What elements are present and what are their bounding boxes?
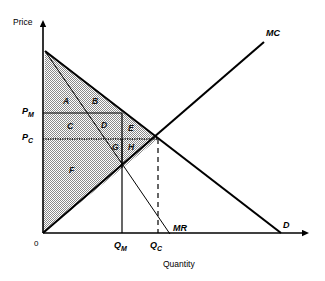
region-label-g: G <box>112 143 119 152</box>
price-tick-pm-sub: M <box>28 111 34 118</box>
region-label-f: F <box>69 166 74 175</box>
region-label-d: D <box>101 121 107 130</box>
quantity-tick-qc-sub: C <box>157 245 162 252</box>
x-axis-title: Quantity <box>163 260 195 269</box>
marginal-revenue-label: MR <box>173 224 187 233</box>
region-label-c: C <box>67 122 73 131</box>
quantity-tick-qc: QC <box>150 241 162 252</box>
price-tick-pc: PC <box>22 133 33 144</box>
quantity-tick-qc-text: Q <box>150 240 157 250</box>
demand-label: D <box>283 221 290 230</box>
price-tick-pm: PM <box>22 107 34 118</box>
region-label-h: H <box>128 143 134 152</box>
marginal-cost-label: MC <box>266 29 280 38</box>
region-label-b: B <box>92 97 98 106</box>
origin-label: 0 <box>34 240 38 248</box>
diagram-canvas <box>0 0 325 281</box>
economics-diagram: Price Quantity 0 PM PC QM QC MC MR D A B… <box>0 0 325 281</box>
quantity-tick-qm-text: Q <box>114 240 121 250</box>
region-label-e: E <box>128 124 134 133</box>
y-axis-title: Price <box>13 18 32 27</box>
region-label-a: A <box>63 97 69 106</box>
quantity-tick-qm-sub: M <box>121 245 127 252</box>
quantity-tick-qm: QM <box>114 241 127 252</box>
price-tick-pc-sub: C <box>28 137 33 144</box>
shaded-surplus-area <box>43 51 158 233</box>
